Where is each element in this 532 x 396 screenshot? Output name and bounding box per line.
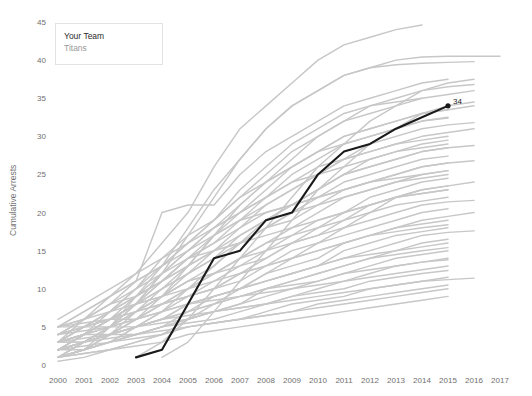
x-tick-2013: 2013 [387,376,405,385]
y-tick-20: 20 [37,209,46,218]
x-tick-2017: 2017 [491,376,509,385]
legend-box: Your Team Titans [55,23,163,65]
x-tick-2006: 2006 [205,376,223,385]
y-tick-5: 5 [42,323,47,332]
x-tick-2015: 2015 [439,376,457,385]
y-tick-30: 30 [37,132,46,141]
x-tick-2001: 2001 [75,376,93,385]
y-tick-15: 15 [37,247,46,256]
x-tick-2002: 2002 [101,376,119,385]
y-axis-title: Cumulative Arrests [8,165,18,236]
background-series-line [162,102,474,357]
x-tick-2012: 2012 [361,376,379,385]
y-tick-25: 25 [37,170,46,179]
y-tick-40: 40 [37,56,46,65]
legend-subtitle: Titans [64,42,162,54]
y-tick-45: 45 [37,18,46,27]
highlighted-series-endpoint-marker [445,103,450,108]
x-tick-2008: 2008 [257,376,275,385]
background-series-line [58,225,448,327]
x-tick-2005: 2005 [179,376,197,385]
x-axis-tick-labels: 2000200120022003200420052006200720082009… [49,376,509,385]
y-tick-10: 10 [37,285,46,294]
y-tick-0: 0 [42,361,47,370]
y-tick-35: 35 [37,94,46,103]
x-tick-2009: 2009 [283,376,301,385]
highlighted-series-value-label: 34 [453,97,462,106]
x-tick-2014: 2014 [413,376,431,385]
chart-container: 051015202530354045 200020012002200320042… [0,0,532,396]
x-tick-2010: 2010 [309,376,327,385]
x-tick-2000: 2000 [49,376,67,385]
legend-title: Your Team [64,30,162,42]
x-tick-2016: 2016 [465,376,483,385]
y-axis-tick-labels: 051015202530354045 [37,18,46,370]
x-tick-2004: 2004 [153,376,171,385]
x-tick-2011: 2011 [335,376,353,385]
background-series-line [58,197,448,357]
x-tick-2007: 2007 [231,376,249,385]
x-tick-2003: 2003 [127,376,145,385]
background-series-group [58,25,500,361]
